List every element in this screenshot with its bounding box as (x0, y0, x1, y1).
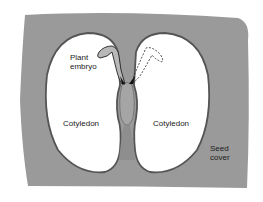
cotyledon-left-label: Cotyledon (63, 119, 99, 128)
label-line: Plant (70, 53, 97, 62)
label-line: embryo (70, 62, 97, 71)
seed-illustration (0, 0, 263, 202)
cotyledon-right-label: Cotyledon (153, 119, 189, 128)
label-line: Seed (210, 144, 230, 153)
embryo-axis (120, 83, 135, 126)
label-line: cover (210, 153, 230, 162)
seed-diagram: Plant embryo Cotyledon Cotyledon Seed co… (0, 0, 263, 202)
seed-cover-label: Seed cover (210, 144, 230, 162)
plant-embryo-label: Plant embryo (70, 53, 97, 71)
